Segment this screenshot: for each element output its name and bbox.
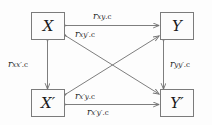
node-box-x-prime[interactable]: X′ <box>31 89 65 117</box>
node-label-y: Y <box>172 19 182 34</box>
node-label-x-prime: X′ <box>41 96 55 111</box>
edge-label-x-yp-sub: xy′ <box>79 31 89 39</box>
edge-label-x-yp-suffix: .c <box>89 31 95 39</box>
edge-label-y-yp-sub: yy′ <box>174 61 184 69</box>
edge-label-xp-yp-suffix: .c <box>102 109 108 117</box>
node-box-y[interactable]: Y <box>160 12 194 40</box>
edge-label-x-yp: rxy′.c <box>75 30 95 39</box>
edge-label-xp-y-suffix: .c <box>89 93 95 101</box>
edge-label-xp-y: rx′y.c <box>75 92 95 101</box>
edge-label-xp-y-sub: x′y <box>79 93 89 101</box>
edge-label-y-yp: ryy′.c <box>170 60 190 69</box>
edge-label-xp-yp-sub: x′y′ <box>91 109 102 117</box>
edge-label-x-xp-suffix: .c <box>22 61 28 69</box>
edge-label-x-y-suffix: .c <box>105 13 111 21</box>
edge-label-xp-yp: rx′y′.c <box>87 108 109 117</box>
node-label-x: X <box>43 19 54 34</box>
node-box-y-prime[interactable]: Y′ <box>160 89 194 117</box>
edge-label-x-xp: rxx′.c <box>8 60 28 69</box>
path-diagram: X Y X′ Y′ rxy.c rxy′.c rxx′.c ryy′.c rx′… <box>0 0 212 125</box>
edge-label-y-yp-suffix: .c <box>184 61 190 69</box>
node-label-y-prime: Y′ <box>170 96 183 111</box>
edge-label-x-xp-sub: xx′ <box>12 61 22 69</box>
edge-label-x-y: rxy.c <box>93 12 111 21</box>
node-box-x[interactable]: X <box>31 12 65 40</box>
